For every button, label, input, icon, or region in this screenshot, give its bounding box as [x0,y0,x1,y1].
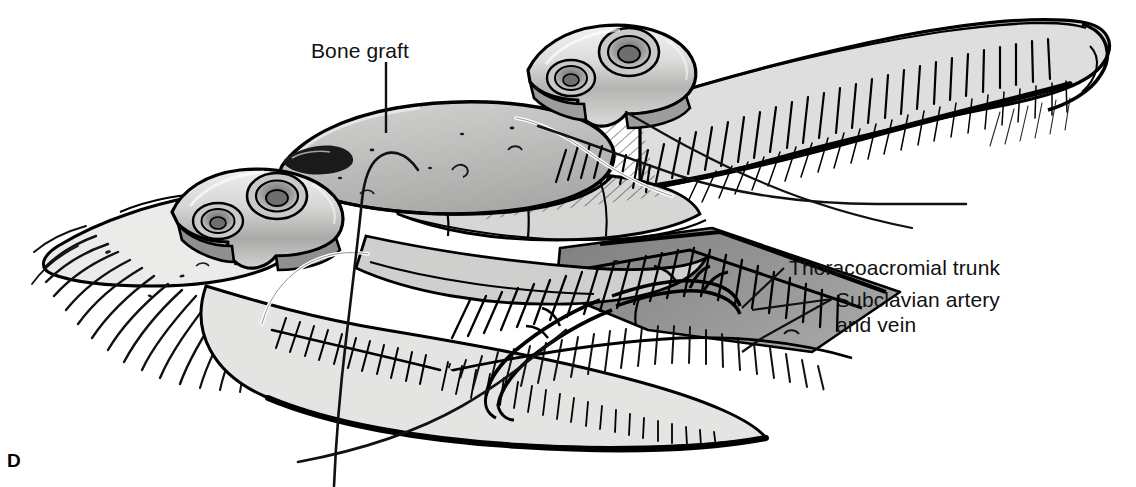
label-subclavian-line1: Subclavian artery [836,288,1000,311]
screw-hole [247,173,307,219]
screw-hole [547,60,595,96]
clavicle-reconstruction-illustration [0,0,1136,487]
figure-panel-d: Bone graft Thoracoacromial trunk Subclav… [0,0,1136,487]
screw-hole [599,28,659,76]
label-subclavian-vessels: Subclavian artery and vein [836,287,1000,337]
screw-hole [193,203,243,239]
panel-letter: D [7,450,21,472]
label-subclavian-line2: and vein [836,312,1000,337]
label-bone-graft: Bone graft [311,38,409,63]
label-thoracoacromial-trunk: Thoracoacromial trunk [789,255,1000,280]
bone-plate-right [528,25,696,128]
